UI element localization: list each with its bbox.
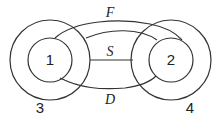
edge-f-inner-arc — [86, 31, 157, 40]
node-label-4: 4 — [186, 99, 194, 116]
node-label-3: 3 — [36, 99, 44, 116]
edge-label-f: F — [105, 5, 115, 20]
edge-label-s: S — [107, 44, 114, 59]
edge-label-d: D — [104, 92, 115, 107]
node-label-2: 2 — [167, 51, 175, 68]
diagram-canvas: 1 2 3 4 F S D — [0, 0, 221, 119]
node-label-1: 1 — [46, 51, 54, 68]
